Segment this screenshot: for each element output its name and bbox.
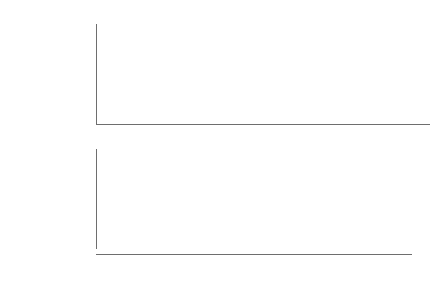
peloponnesos-svg [0,135,438,255]
figure-container [0,0,438,290]
x-axis-svg [0,248,438,290]
x-axis-strip [0,248,438,290]
chart-panel-peloponnesos [0,135,438,255]
epirus-svg [0,0,438,135]
chart-panel-epirus [0,0,438,135]
